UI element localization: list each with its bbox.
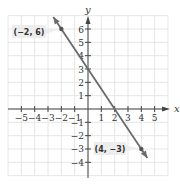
x-tick-label: −3 bbox=[41, 113, 55, 123]
plot-area: xy −5−4−3−2−112345−4−3−2−1123456 (−2, 6)… bbox=[0, 0, 180, 185]
y-tick-label: 6 bbox=[78, 25, 84, 35]
data-line bbox=[53, 17, 147, 158]
y-tick-label: 2 bbox=[78, 78, 84, 88]
y-tick-label: −1 bbox=[71, 118, 84, 128]
x-tick-label: −4 bbox=[28, 113, 42, 123]
x-axis-arrow-icon bbox=[162, 107, 170, 112]
y-axis-arrow-icon bbox=[86, 16, 91, 24]
x-tick-label: 5 bbox=[152, 113, 158, 123]
point-label-text: (−2, 6) bbox=[14, 28, 45, 37]
x-tick-label: 1 bbox=[98, 113, 104, 123]
y-tick-label: −4 bbox=[71, 158, 85, 168]
x-tick-label: 3 bbox=[125, 113, 131, 123]
x-axis-label: x bbox=[174, 103, 180, 114]
y-tick-label: −2 bbox=[71, 131, 84, 141]
point-label-pointer bbox=[46, 29, 59, 34]
y-tick-label: 1 bbox=[78, 91, 84, 101]
y-tick-label: −3 bbox=[71, 144, 85, 154]
y-tick-label: 3 bbox=[78, 65, 84, 75]
y-axis-label: y bbox=[84, 4, 91, 15]
y-tick-label: 5 bbox=[78, 38, 84, 48]
line-path bbox=[53, 17, 147, 158]
x-tick-label: 2 bbox=[112, 113, 118, 123]
x-tick-label: 4 bbox=[138, 113, 144, 123]
point-label-pointer bbox=[126, 145, 139, 151]
x-tick-label: −5 bbox=[15, 113, 29, 123]
x-tick-label: −2 bbox=[55, 113, 68, 123]
point-label-text: (4, −3) bbox=[95, 145, 126, 154]
data-point bbox=[139, 147, 143, 151]
data-point bbox=[59, 27, 63, 31]
coordinate-plane-chart: xy −5−4−3−2−112345−4−3−2−1123456 (−2, 6)… bbox=[0, 0, 180, 185]
